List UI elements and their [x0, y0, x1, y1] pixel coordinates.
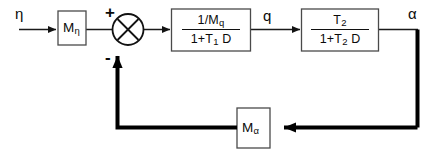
signal-label-input-eta: η: [15, 6, 23, 21]
block-tf-1-label: 1/Mq 1+T1 D: [172, 9, 251, 51]
block-m-alpha-letter: M: [242, 120, 253, 135]
block-m-alpha-label: Mα: [242, 121, 259, 136]
block-diagram: η q α + - Mη 1/Mq 1+T1 D T2 1+T2 D Mα: [0, 0, 434, 152]
wire-malpha-to-sum: [118, 56, 238, 128]
summing-junction: [113, 14, 144, 45]
block-tf-1-denominator: 1+T1 D: [185, 30, 238, 47]
block-tf-2-denominator-operator: D: [348, 32, 361, 46]
block-tf-1-denominator-main: 1+T: [191, 32, 213, 46]
block-tf-1-numerator-subscript: q: [219, 17, 225, 28]
block-m-eta-letter: M: [63, 20, 74, 35]
block-tf-2-numerator-main: T: [333, 13, 341, 27]
summing-junction-plus-sign: +: [105, 4, 115, 21]
block-tf-1-denominator-operator: D: [219, 32, 232, 46]
block-m-eta-label: Mη: [63, 21, 80, 36]
signal-label-output-alpha: α: [408, 6, 417, 21]
block-tf-2-denominator: 1+T2 D: [314, 30, 367, 47]
block-tf-2-numerator-subscript: 2: [341, 17, 347, 28]
block-m-eta-subscript: η: [74, 25, 80, 36]
block-tf-1-numerator-main: 1/M: [198, 13, 219, 27]
summing-junction-minus-sign: -: [105, 49, 111, 66]
block-tf-2-denominator-main: 1+T: [320, 32, 342, 46]
block-tf-1-numerator: 1/Mq: [192, 13, 231, 30]
block-m-alpha-subscript: α: [253, 125, 259, 136]
block-tf-2-numerator: T2: [327, 13, 352, 30]
signal-label-q: q: [263, 8, 271, 23]
block-tf-2-label: T2 1+T2 D: [302, 9, 379, 51]
